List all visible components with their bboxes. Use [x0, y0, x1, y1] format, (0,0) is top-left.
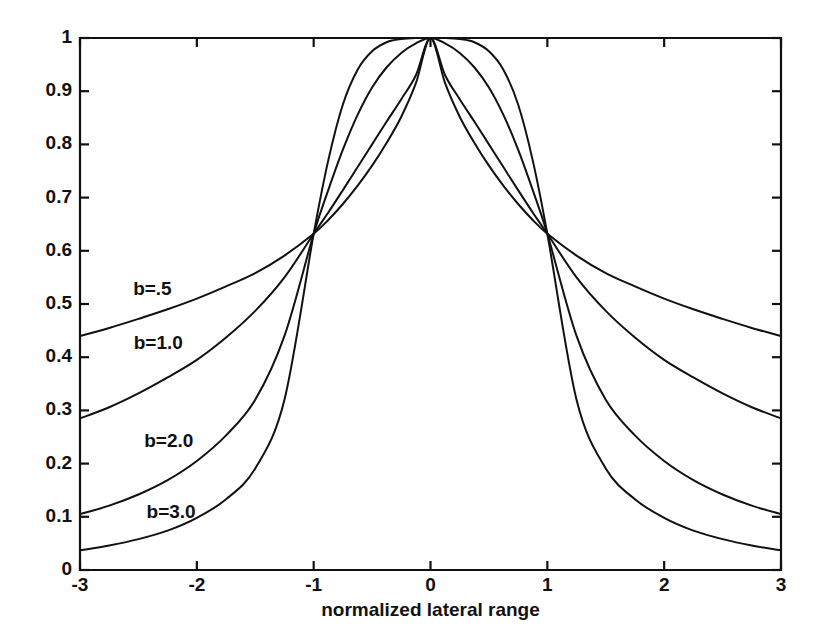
y-tick-label-5: 0.5	[46, 292, 73, 313]
x-tick-label-6: 3	[776, 574, 787, 595]
chart-figure: -3-2-10123 00.10.20.30.40.50.60.70.80.91…	[0, 0, 823, 643]
y-tick-label-6: 0.6	[46, 239, 72, 260]
y-tick-label-2: 0.2	[46, 452, 72, 473]
curve-label-2: b=2.0	[144, 430, 193, 451]
x-tick-label-1: -2	[188, 574, 205, 595]
x-tick-label-3: 0	[425, 574, 436, 595]
y-tick-label-4: 0.4	[46, 345, 73, 366]
y-tick-label-3: 0.3	[46, 398, 72, 419]
x-tick-label-2: -1	[305, 574, 322, 595]
x-tick-label-5: 2	[659, 574, 670, 595]
x-axis-title: normalized lateral range	[321, 599, 540, 620]
curve-label-3: b=3.0	[147, 501, 196, 522]
curve-label-0: b=.5	[133, 278, 172, 299]
y-tick-label-9: 0.9	[46, 79, 72, 100]
y-tick-label-7: 0.7	[46, 186, 72, 207]
y-tick-label-10: 1	[61, 26, 72, 47]
y-tick-label-0: 0	[61, 558, 72, 579]
x-tick-label-0: -3	[72, 574, 89, 595]
curve-label-1: b=1.0	[134, 332, 183, 353]
y-tick-label-8: 0.8	[46, 132, 72, 153]
lateral-range-line-chart: -3-2-10123 00.10.20.30.40.50.60.70.80.91…	[0, 0, 823, 643]
y-tick-label-1: 0.1	[46, 505, 73, 526]
x-tick-label-4: 1	[542, 574, 553, 595]
